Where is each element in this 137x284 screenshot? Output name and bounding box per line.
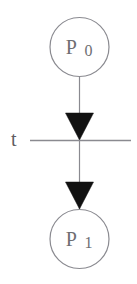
place-label-p0-subscript: 0 <box>85 42 93 59</box>
place-circle-p0[interactable] <box>50 18 109 77</box>
arrowhead-p0-to-t <box>66 113 94 140</box>
petri-net-diagram: P 0 P 1 t <box>0 0 137 284</box>
place-circle-p1[interactable] <box>50 210 109 269</box>
arrowhead-t-to-p1 <box>66 182 94 209</box>
transition-label-t: t <box>11 128 17 150</box>
diagram-svg: P 0 P 1 t <box>0 0 137 284</box>
place-label-p1-subscript: 1 <box>85 234 93 251</box>
place-label-p1: P <box>66 228 78 250</box>
place-label-p0: P <box>66 36 78 58</box>
